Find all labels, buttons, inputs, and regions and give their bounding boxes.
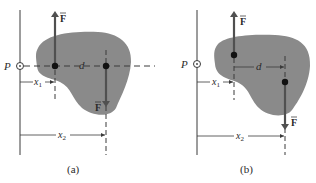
force-label-down-a: F bbox=[95, 102, 101, 113]
panel-a: P F F d x1 x2 (a) bbox=[3, 10, 155, 176]
force-label-up-b: F bbox=[240, 16, 246, 27]
panel-b: P F F d x1 x2 (b) bbox=[180, 10, 310, 176]
x1-label-b: x1 bbox=[211, 76, 220, 89]
distance-d-label-b: d bbox=[256, 60, 262, 72]
x2-label-b: x2 bbox=[235, 130, 244, 143]
caption-b: (b) bbox=[240, 163, 253, 176]
force-point-1-b bbox=[231, 52, 237, 58]
force-point-2-b bbox=[282, 79, 288, 85]
rigid-body-b bbox=[214, 35, 310, 116]
force-label-up-a: F bbox=[60, 13, 66, 24]
point-p-label-b: P bbox=[180, 58, 188, 70]
caption-a: (a) bbox=[67, 163, 80, 176]
point-p-label-a: P bbox=[3, 60, 11, 72]
force-label-down-b: F bbox=[291, 117, 297, 128]
distance-d-label-a: d bbox=[79, 59, 85, 71]
rigid-body-a bbox=[36, 32, 131, 115]
x2-label-a: x2 bbox=[57, 129, 66, 142]
force-point-2-a bbox=[103, 63, 109, 69]
couple-moment-diagram: P F F d x1 x2 (a) P bbox=[0, 0, 316, 183]
force-point-1-a bbox=[52, 63, 58, 69]
x1-label-a: x1 bbox=[33, 76, 42, 89]
